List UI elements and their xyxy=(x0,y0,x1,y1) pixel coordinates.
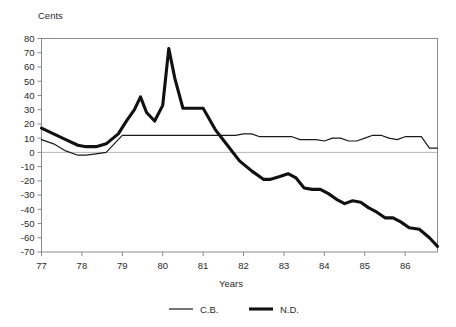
y-tick-label: -60 xyxy=(21,232,35,243)
y-axis-title: Cents xyxy=(38,10,63,21)
x-tick-label: 77 xyxy=(36,260,47,271)
x-tick-label: 79 xyxy=(117,260,128,271)
x-axis-tick-labels: 77787980818283848586 xyxy=(36,260,410,271)
chart-legend: C.B. N.D. xyxy=(169,304,299,315)
y-tick-label: 50 xyxy=(24,76,35,87)
y-tick-label: -30 xyxy=(21,189,35,200)
x-tick-label: 80 xyxy=(157,260,168,271)
legend-label-cb: C.B. xyxy=(200,304,218,315)
legend-label-nd: N.D. xyxy=(280,304,299,315)
x-tick-label: 83 xyxy=(279,260,290,271)
y-tick-label: 0 xyxy=(29,147,34,158)
series-line-nd xyxy=(42,48,438,246)
y-tick-label: -40 xyxy=(21,204,35,215)
y-tick-label: -70 xyxy=(21,246,35,257)
y-axis-tick-marks xyxy=(38,39,42,253)
y-tick-label: 80 xyxy=(24,33,35,44)
y-tick-label: 20 xyxy=(24,118,35,129)
x-tick-label: 82 xyxy=(238,260,249,271)
x-tick-label: 78 xyxy=(77,260,88,271)
chart-container: Cents 80706050403020100-10-20-30-40-50-6… xyxy=(0,0,456,327)
y-tick-label: 40 xyxy=(24,90,35,101)
x-axis-tick-marks xyxy=(42,252,406,256)
y-tick-label: 60 xyxy=(24,61,35,72)
y-axis-tick-labels: 80706050403020100-10-20-30-40-50-60-70 xyxy=(21,33,35,258)
y-tick-label: 30 xyxy=(24,104,35,115)
y-tick-label: -10 xyxy=(21,161,35,172)
y-tick-label: 70 xyxy=(24,47,35,58)
x-tick-label: 81 xyxy=(198,260,209,271)
line-chart: Cents 80706050403020100-10-20-30-40-50-6… xyxy=(0,0,456,327)
x-tick-label: 86 xyxy=(400,260,411,271)
x-axis-title: Years xyxy=(219,278,243,289)
y-tick-label: -50 xyxy=(21,218,35,229)
x-tick-label: 84 xyxy=(319,260,330,271)
y-tick-label: 10 xyxy=(24,133,35,144)
x-tick-label: 85 xyxy=(359,260,370,271)
y-tick-label: -20 xyxy=(21,175,35,186)
